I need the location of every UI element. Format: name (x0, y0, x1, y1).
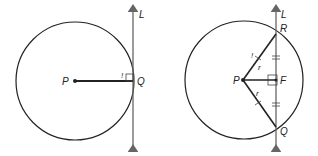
label-Q-left: Q (137, 76, 145, 87)
label-r-top: r (258, 63, 261, 72)
point-F (275, 79, 278, 82)
point-P-right (241, 78, 245, 82)
mark-right: ! (251, 51, 254, 60)
label-L-left: L (139, 9, 145, 20)
label-P-left: P (62, 76, 69, 87)
label-L-right: L (281, 9, 287, 20)
diagram: P Q L ! P R Q F L r r ! (0, 0, 318, 156)
point-P-left (73, 79, 77, 83)
segment-PR (243, 34, 276, 80)
segment-PQ (243, 80, 276, 127)
label-Q-right: Q (280, 126, 288, 137)
figure-left: P Q L ! (16, 8, 145, 148)
label-R: R (280, 23, 287, 34)
figure-right: P R Q F L r r ! (185, 8, 303, 148)
mark-left: ! (121, 71, 124, 80)
right-angle-mark-left (126, 74, 133, 81)
label-r-bottom: r (256, 89, 259, 98)
label-F: F (280, 75, 287, 86)
label-P-right: P (233, 75, 240, 86)
